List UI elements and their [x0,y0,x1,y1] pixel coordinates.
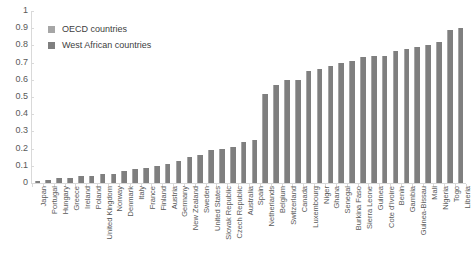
bar [154,166,160,183]
x-axis-tick-label: Liberia [464,186,472,209]
y-axis-tick-mark [31,80,34,81]
x-axis-tick-label: Cote d'Ivoire [388,186,396,228]
bar [132,169,138,183]
legend-label-west-african: West African countries [62,40,151,50]
bar [56,178,62,183]
bar-slot [187,11,193,183]
y-axis-tick-label: 0 [23,178,28,187]
bar [328,66,334,183]
bar [197,155,203,183]
x-axis-tick-label: Poland [95,186,103,209]
y-axis-tick-mark [31,183,34,184]
bar-slot [349,11,355,183]
bar [273,85,279,183]
bar [371,56,377,183]
x-axis-tick-label: United Kingdom [106,186,114,239]
y-axis-tick-mark [31,45,34,46]
x-axis-tick-label: Greece [73,186,81,211]
x-axis-tick-label: France [149,186,157,209]
bar-slot [241,11,247,183]
bar [306,71,312,183]
y-axis-tick-mark [31,131,34,132]
y-axis-tick-mark [31,97,34,98]
bar-slot [219,11,225,183]
x-axis-tick-label: Ireland [84,186,92,209]
bar-slot [360,11,366,183]
legend-item-west-african: West African countries [48,38,151,52]
bar [35,181,41,183]
bar [425,45,431,183]
y-axis-tick-label: 0.7 [15,58,28,67]
x-axis-tick-label: Netherlands [268,186,276,226]
x-axis-tick-label: Senegal [344,186,352,214]
x-axis-tick-label: Sweden [203,186,211,213]
x-axis-tick-label: Mali [431,186,439,200]
y-axis-tick-label: 0.1 [15,161,28,170]
bar [360,57,366,183]
x-axis-tick-label: Canada [301,186,309,212]
y-axis-tick-label: 0.5 [15,92,28,101]
x-axis-tick-label: Togo [453,186,461,202]
bar [338,63,344,183]
y-axis-tick-label: 0.3 [15,126,28,135]
bar-slot [404,11,410,183]
bar [208,150,214,183]
x-axis-tick-label: Norway [116,186,124,211]
bar [317,69,323,183]
x-axis-tick-label: Guinea [377,186,385,210]
y-axis-tick-mark [31,11,34,12]
bar-slot [371,11,377,183]
y-axis-tick-label: 0.4 [15,109,28,118]
bar [414,47,420,183]
bar [143,168,149,183]
x-axis-tick-label: Australia [247,186,255,215]
bar-slot [176,11,182,183]
bar-slot [197,11,203,183]
x-axis-tick-label: Gambia [409,186,417,212]
bar [436,42,442,183]
x-axis-category-labels: JapanPortugalHungaryGreeceIrelandPolandU… [32,186,466,263]
bar-slot [458,11,464,183]
bar-slot [317,11,323,183]
x-axis-tick-label: Austria [171,186,179,209]
x-axis-tick-label: Japan [40,186,48,206]
legend-swatch-west-african [48,42,55,49]
bar [458,28,464,183]
bar-slot [230,11,236,183]
bar [100,174,106,183]
y-axis-tick-label: 0.8 [15,40,28,49]
legend-swatch-oecd [48,26,55,33]
bar [447,30,453,183]
x-axis-tick-label: Benin [398,186,406,205]
x-axis-tick-label: Germany [181,186,189,217]
bar-slot [414,11,420,183]
x-axis-tick-label: Luxembourg [312,186,320,228]
x-axis-tick-label: Ghana [333,186,341,209]
bar-slot [154,11,160,183]
legend-item-oecd: OECD countries [48,22,151,36]
bar-slot [165,11,171,183]
x-axis-tick-label: Denmark [127,186,135,216]
x-axis-tick-label: Switzerland [290,186,298,225]
bar [121,171,127,183]
y-axis-tick-mark [31,28,34,29]
bar [382,56,388,183]
x-axis-tick-label: Spain [257,186,265,205]
bar [219,149,225,183]
x-axis-tick-label: Belgium [279,186,287,213]
bar [284,80,290,183]
y-axis-tick-mark [31,114,34,115]
x-axis-tick-label: Italy [138,186,146,200]
bar [176,161,182,183]
bar-slot [208,11,214,183]
bar-slot [393,11,399,183]
bar-slot [328,11,334,183]
y-axis-tick-labels: 10.90.80.70.60.50.40.30.20.10 [0,0,28,263]
legend-label-oecd: OECD countries [62,24,127,34]
bar [67,178,73,183]
x-axis-tick-label: United States [214,186,222,231]
bar-slot [382,11,388,183]
bar-slot [306,11,312,183]
y-axis-tick-mark [31,166,34,167]
